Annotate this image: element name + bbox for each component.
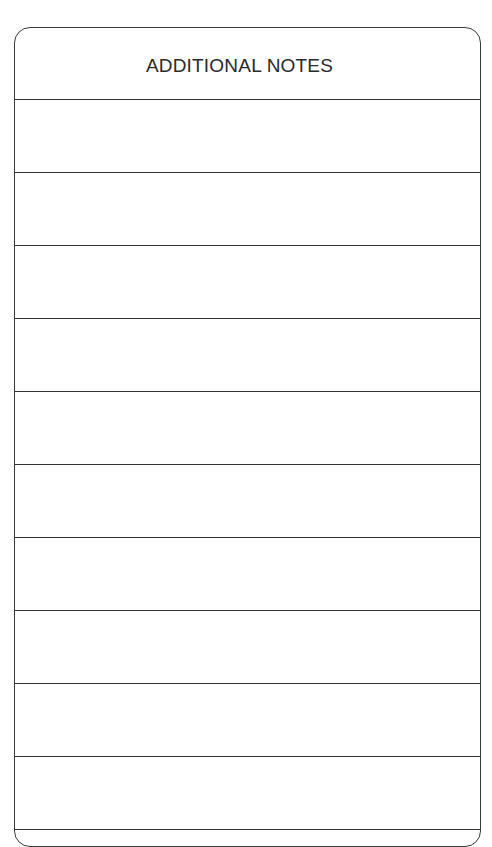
note-line-2	[15, 173, 480, 246]
note-line-10	[15, 757, 480, 830]
note-line-input[interactable]	[15, 757, 480, 829]
notes-title: ADDITIONAL NOTES	[146, 55, 333, 77]
note-line-input[interactable]	[15, 538, 480, 610]
note-line-input[interactable]	[15, 319, 480, 391]
note-line-input[interactable]	[15, 173, 480, 245]
note-line-8	[15, 611, 480, 684]
note-line-1	[15, 100, 480, 173]
note-line-input[interactable]	[15, 392, 480, 464]
note-line-input[interactable]	[15, 465, 480, 537]
note-line-4	[15, 319, 480, 392]
notes-card: ADDITIONAL NOTES	[14, 27, 481, 847]
note-line-input[interactable]	[15, 246, 480, 318]
note-line-3	[15, 246, 480, 319]
note-line-5	[15, 392, 480, 465]
note-line-input[interactable]	[15, 684, 480, 756]
note-line-input[interactable]	[15, 100, 480, 172]
note-line-6	[15, 465, 480, 538]
note-line-7	[15, 538, 480, 611]
notes-header: ADDITIONAL NOTES	[15, 28, 480, 100]
note-line-9	[15, 684, 480, 757]
note-line-input[interactable]	[15, 611, 480, 683]
